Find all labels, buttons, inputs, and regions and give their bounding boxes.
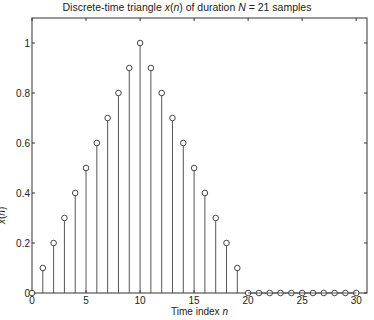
stem-marker: [126, 65, 132, 71]
stem-plot: 05101520253000.20.40.60.81: [0, 0, 374, 320]
stem-marker: [116, 90, 122, 96]
stem-marker: [29, 290, 35, 296]
x-axis-label: Time index n: [32, 306, 367, 317]
stem-marker: [170, 115, 176, 121]
x-tick-label: 0: [29, 295, 35, 306]
stem-marker: [159, 90, 165, 96]
stem-marker: [148, 65, 154, 71]
y-tick-label: 1: [24, 38, 30, 49]
stem-marker: [202, 190, 208, 196]
stem-marker: [180, 140, 186, 146]
x-tick-label: 15: [189, 295, 201, 306]
stem-marker: [191, 165, 197, 171]
x-tick-label: 30: [351, 295, 363, 306]
stem-marker: [224, 240, 230, 246]
stem-marker: [72, 190, 78, 196]
x-tick-label: 10: [135, 295, 147, 306]
x-tick-label: 20: [243, 295, 255, 306]
stem-marker: [94, 140, 100, 146]
y-axis-label: x(n): [0, 207, 7, 224]
stem-marker: [40, 265, 46, 271]
y-tick-label: 0.4: [16, 188, 30, 199]
y-tick-label: 0.6: [16, 138, 30, 149]
stem-marker: [235, 265, 241, 271]
stem-marker: [213, 215, 219, 221]
y-tick-label: 0.8: [16, 88, 30, 99]
x-tick-label: 25: [297, 295, 309, 306]
stem-marker: [51, 240, 57, 246]
stem-marker: [83, 165, 89, 171]
axes-frame: [32, 18, 367, 293]
stem-marker: [105, 115, 111, 121]
x-tick-label: 5: [83, 295, 89, 306]
stem-marker: [62, 215, 68, 221]
stem-marker: [137, 40, 143, 46]
y-tick-label: 0.2: [16, 238, 30, 249]
